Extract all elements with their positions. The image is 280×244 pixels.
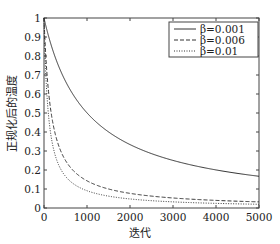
y-tick-label: 0.5: [24, 107, 41, 119]
y-tick-label: 0.1: [24, 183, 41, 195]
y-tick-label: 0.8: [24, 50, 41, 62]
y-tick-label: 0.4: [24, 126, 41, 138]
x-tick-label: 0: [41, 211, 48, 223]
x-tick-label: 2000: [117, 211, 144, 223]
x-tick-label: 4000: [203, 211, 230, 223]
y-tick-label: 1: [34, 12, 41, 24]
legend-label: β=0.01: [200, 45, 238, 57]
x-tick-label: 3000: [160, 211, 187, 223]
legend: β=0.001β=0.006β=0.01: [169, 22, 258, 57]
y-tick-label: 0.6: [24, 88, 41, 100]
x-tick-label: 1000: [74, 211, 101, 223]
y-tick-label: 0.7: [24, 69, 41, 81]
line-chart: 00.10.20.30.40.50.60.70.80.91 0100020003…: [0, 0, 280, 244]
y-tick-label: 0.2: [24, 164, 41, 176]
x-tick-label: 5000: [246, 211, 273, 223]
x-axis-label: 迭代: [129, 227, 151, 240]
y-tick-label: 0.3: [24, 145, 41, 157]
y-axis-label: 正规化后的温度: [5, 75, 19, 152]
y-tick-label: 0.9: [24, 31, 41, 43]
